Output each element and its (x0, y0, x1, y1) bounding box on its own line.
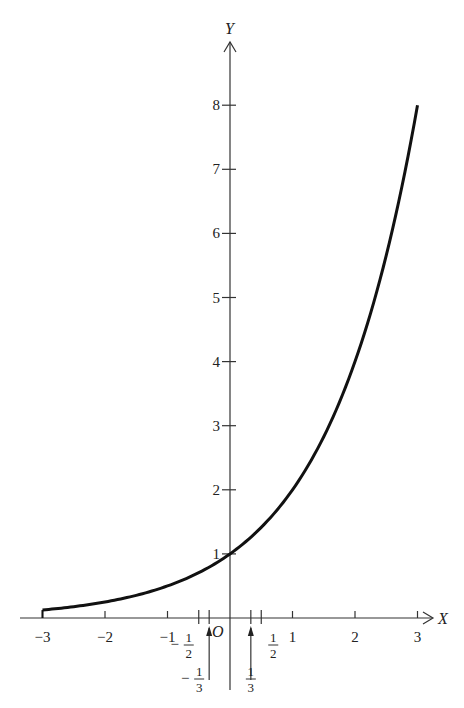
fraction-numerator: 1 (270, 630, 277, 645)
y-ticks: 12345678 (213, 97, 237, 562)
y-tick-label: 7 (213, 161, 221, 177)
x-tick-label: 2 (351, 629, 359, 645)
y-tick-label: 4 (213, 354, 221, 370)
y-axis-title: Y (225, 20, 236, 37)
x-tick-label: 1 (289, 629, 297, 645)
origin-label: O (212, 623, 224, 640)
y-tick-label: 5 (213, 290, 221, 306)
exponential-plot: X Y O −3−2−1123 12345678 −12−131312 (0, 0, 464, 708)
axes: X Y O (20, 20, 449, 690)
x-tick-label: −2 (97, 629, 113, 645)
fraction-numerator: 1 (186, 630, 193, 645)
fraction-numerator: 1 (248, 664, 255, 679)
fraction-denominator: 3 (248, 680, 255, 695)
x-tick-label: −3 (35, 629, 51, 645)
x-ticks: −3−2−1123 (35, 611, 422, 645)
fraction-sign: − (181, 670, 189, 686)
y-tick-label: 8 (213, 97, 221, 113)
y-tick-label: 3 (213, 418, 221, 434)
fraction-sign: − (171, 636, 179, 652)
y-tick-label: 1 (213, 546, 221, 562)
x-axis-title: X (437, 610, 449, 627)
y-tick-label: 6 (213, 225, 221, 241)
fraction-denominator: 3 (196, 680, 203, 695)
fraction-ticks: −12−131312 (171, 610, 279, 695)
fraction-denominator: 2 (186, 646, 193, 661)
x-tick-label: 3 (414, 629, 422, 645)
fraction-denominator: 2 (270, 646, 277, 661)
y-tick-label: 2 (213, 482, 221, 498)
fraction-numerator: 1 (196, 664, 203, 679)
arrow-up-icon (248, 626, 254, 636)
